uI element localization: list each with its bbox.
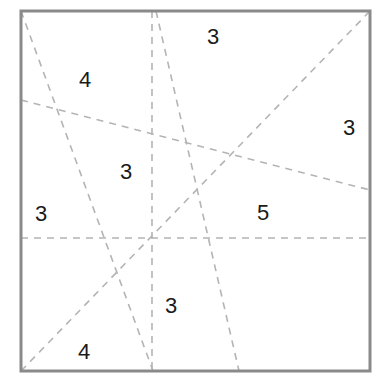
figure-root: 34333534 <box>0 0 391 388</box>
figure-background <box>0 0 391 388</box>
figure-canvas <box>0 0 391 388</box>
